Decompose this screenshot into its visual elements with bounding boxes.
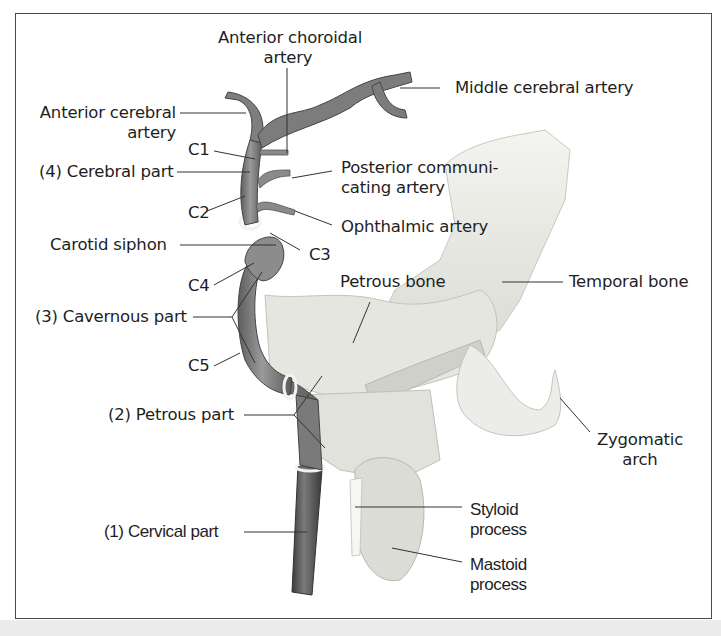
label-line: Mastoid [470,555,527,575]
label-middle-cerebral-artery: Middle cerebral artery [455,78,633,98]
label-posterior-communicating-artery: Posterior communi- cating artery [341,158,498,198]
label-petrous-part: (2) Petrous part [108,405,234,425]
label-line: cating artery [341,178,498,198]
label-anterior-choroidal-artery: Anterior choroidal artery [218,28,358,68]
label-c3: C3 [309,245,331,265]
label-line: process [470,520,527,540]
label-c1: C1 [188,140,210,160]
label-line: artery [20,123,176,143]
label-c4: C4 [188,276,210,296]
label-line: Styloid [470,500,527,520]
label-c2: C2 [188,203,210,223]
label-line: Zygomatic [590,430,690,450]
label-styloid-process: Styloid process [470,500,527,540]
label-carotid-siphon: Carotid siphon [50,235,167,255]
label-zygomatic-arch: Zygomatic arch [590,430,690,470]
label-petrous-bone: Petrous bone [340,272,446,292]
label-c5: C5 [188,356,210,376]
label-anterior-cerebral-artery: Anterior cerebral artery [20,103,176,143]
label-temporal-bone: Temporal bone [569,272,688,292]
label-line: Anterior cerebral [20,103,176,123]
label-line: Anterior choroidal [218,28,358,48]
label-mastoid-process: Mastoid process [470,555,527,595]
label-line: Posterior communi- [341,158,498,178]
label-ophthalmic-artery: Ophthalmic artery [341,217,488,237]
label-cerebral-part: (4) Cerebral part [39,162,174,182]
label-cavernous-part: (3) Cavernous part [35,307,187,327]
label-line: process [470,575,527,595]
label-line: arch [590,450,690,470]
label-line: artery [218,48,358,68]
label-cervical-part: (1) Cervical part [104,522,218,542]
